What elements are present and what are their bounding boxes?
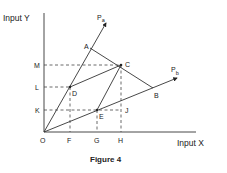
line-a-b xyxy=(90,48,153,88)
point-e-dot xyxy=(96,109,98,111)
tick-m-label: M xyxy=(34,62,40,69)
point-d-dot xyxy=(69,86,71,88)
y-axis-label: Input Y xyxy=(3,13,30,23)
figure-4-diagram: Input Y Input X Pa Pb A C B D E J O M L … xyxy=(0,0,227,173)
origin-label: O xyxy=(40,137,46,144)
tick-g-label: G xyxy=(94,137,99,144)
point-c-dot xyxy=(120,64,123,67)
point-a-label: A xyxy=(84,43,89,50)
ray-pa-label: Pa xyxy=(97,14,106,23)
figure-caption: Figure 4 xyxy=(90,155,122,164)
x-axis-label: Input X xyxy=(177,138,204,148)
point-b-label: B xyxy=(154,92,159,99)
ray-pb xyxy=(44,78,177,132)
point-e-label: E xyxy=(99,113,104,120)
tick-f-label: F xyxy=(67,137,71,144)
line-e-c xyxy=(97,65,121,110)
tick-h-label: H xyxy=(118,137,123,144)
line-d-c xyxy=(70,65,121,87)
tick-l-label: L xyxy=(35,84,39,91)
tick-k-label: K xyxy=(35,107,40,114)
point-d-label: D xyxy=(72,90,77,97)
ray-pb-label: Pb xyxy=(171,66,179,76)
point-j-label: J xyxy=(125,107,129,114)
point-c-label: C xyxy=(125,61,130,68)
